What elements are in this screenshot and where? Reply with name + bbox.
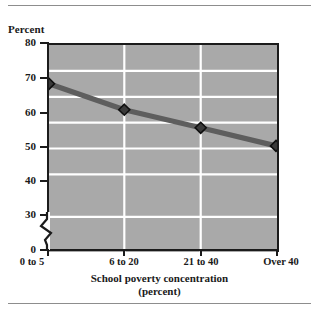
y-tick-label-50: 50 bbox=[10, 140, 36, 152]
x-tick-1 bbox=[123, 249, 125, 256]
x-axis-title-line1: School poverty concentration bbox=[0, 272, 319, 285]
figure-bottom-rule bbox=[8, 303, 311, 304]
data-point-marker bbox=[195, 122, 206, 133]
y-axis-break-icon bbox=[38, 212, 54, 250]
y-axis-title: Percent bbox=[8, 23, 45, 35]
x-axis-title-line2: (percent) bbox=[0, 285, 319, 298]
y-tick-label-40: 40 bbox=[10, 174, 36, 186]
y-tick-label-70: 70 bbox=[10, 71, 36, 83]
y-tick-label-60: 60 bbox=[10, 106, 36, 118]
y-tick-label-80: 80 bbox=[10, 36, 36, 48]
x-tick-3 bbox=[276, 249, 278, 256]
x-tick-0 bbox=[47, 249, 49, 256]
y-tick-70 bbox=[40, 77, 48, 79]
y-tick-40 bbox=[40, 180, 48, 182]
x-tick-2 bbox=[200, 249, 202, 256]
x-axis-line bbox=[40, 249, 279, 251]
figure-top-rule bbox=[8, 5, 311, 6]
x-tick-label-1: 6 to 20 bbox=[109, 256, 139, 267]
y-tick-label-0: 0 bbox=[10, 243, 36, 255]
x-tick-label-2: 21 to 40 bbox=[184, 256, 219, 267]
y-tick-80 bbox=[40, 42, 48, 44]
plot-area bbox=[48, 43, 279, 252]
chart-svg bbox=[48, 45, 277, 252]
y-tick-50 bbox=[40, 146, 48, 148]
y-tick-label-30: 30 bbox=[10, 208, 36, 220]
data-point-marker bbox=[271, 140, 278, 151]
x-tick-label-0: 0 to 5 bbox=[20, 256, 45, 267]
x-tick-label-3: Over 40 bbox=[263, 256, 299, 267]
y-tick-30 bbox=[40, 214, 48, 216]
data-line bbox=[49, 84, 276, 146]
y-tick-60 bbox=[40, 112, 48, 114]
